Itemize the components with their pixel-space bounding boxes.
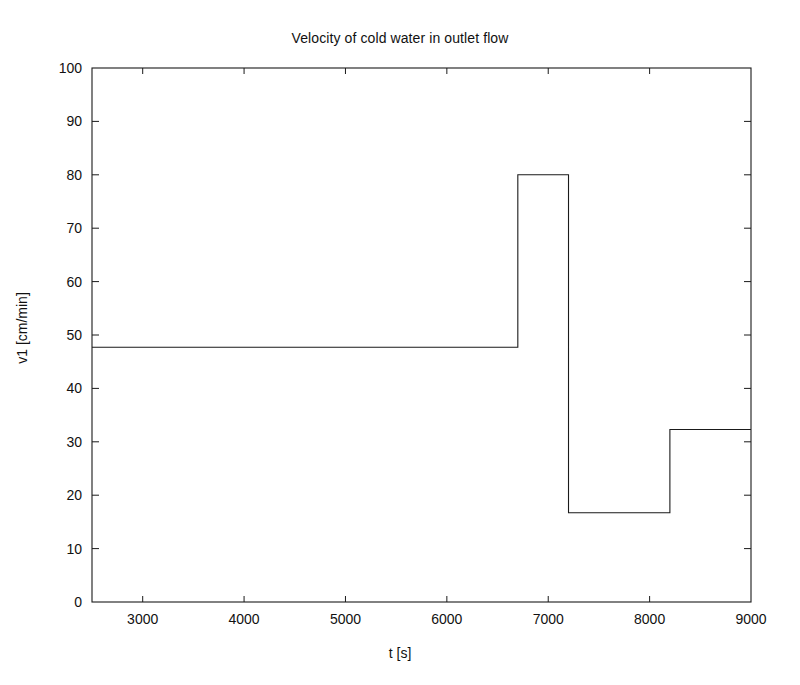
svg-text:10: 10 bbox=[66, 541, 82, 557]
svg-text:4000: 4000 bbox=[228, 611, 259, 627]
svg-text:0: 0 bbox=[74, 594, 82, 610]
svg-text:40: 40 bbox=[66, 380, 82, 396]
y-axis-tick-labels: 0102030405060708090100 bbox=[59, 60, 83, 610]
plot-frame bbox=[92, 68, 751, 602]
data-series-line bbox=[92, 175, 751, 513]
plot-canvas: 3000400050006000700080009000 01020304050… bbox=[0, 0, 800, 685]
svg-text:3000: 3000 bbox=[127, 611, 158, 627]
svg-text:30: 30 bbox=[66, 434, 82, 450]
svg-text:7000: 7000 bbox=[533, 611, 564, 627]
svg-text:8000: 8000 bbox=[634, 611, 665, 627]
svg-text:60: 60 bbox=[66, 274, 82, 290]
svg-text:90: 90 bbox=[66, 113, 82, 129]
svg-text:20: 20 bbox=[66, 487, 82, 503]
svg-text:80: 80 bbox=[66, 167, 82, 183]
x-axis-ticks bbox=[143, 68, 650, 602]
x-axis-label: t [s] bbox=[0, 645, 800, 661]
svg-text:9000: 9000 bbox=[735, 611, 766, 627]
svg-text:70: 70 bbox=[66, 220, 82, 236]
svg-text:5000: 5000 bbox=[330, 611, 361, 627]
svg-text:50: 50 bbox=[66, 327, 82, 343]
chart-figure: Velocity of cold water in outlet flow 30… bbox=[0, 0, 800, 685]
x-axis-tick-labels: 3000400050006000700080009000 bbox=[127, 611, 767, 627]
svg-text:100: 100 bbox=[59, 60, 83, 76]
y-axis-label: v1 [cm/min] bbox=[14, 258, 30, 398]
y-axis-ticks bbox=[92, 121, 751, 548]
y-axis-label-wrapper: v1 [cm/min] bbox=[0, 0, 40, 685]
svg-text:6000: 6000 bbox=[431, 611, 462, 627]
